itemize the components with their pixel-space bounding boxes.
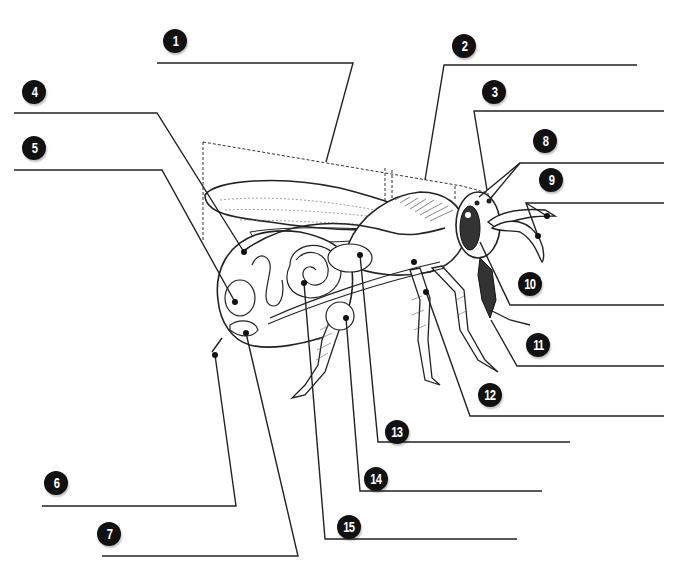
callout-badge-4: 4 bbox=[22, 80, 46, 104]
callout-badge-11: 11 bbox=[526, 333, 550, 357]
callout-badge-3: 3 bbox=[482, 80, 506, 104]
callout-badge-9: 9 bbox=[539, 168, 563, 192]
callout-badge-7: 7 bbox=[97, 522, 121, 546]
callout-badge-15: 15 bbox=[337, 515, 361, 539]
callout-badge-2: 2 bbox=[452, 34, 476, 58]
callout-badge-6: 6 bbox=[44, 471, 68, 495]
callout-badge-10: 10 bbox=[518, 272, 542, 296]
proboscis bbox=[478, 258, 496, 318]
callout-badge-12: 12 bbox=[478, 383, 502, 407]
callout-badge-1: 1 bbox=[163, 29, 187, 53]
bee-illustration bbox=[0, 0, 679, 569]
callout-badge-13: 13 bbox=[385, 420, 409, 444]
callout-badge-5: 5 bbox=[22, 136, 46, 160]
callout-badge-8: 8 bbox=[533, 129, 557, 153]
bee-anatomy-diagram: 1 2 3 4 5 6 7 8 9 10 11 12 13 14 15 bbox=[0, 0, 679, 569]
callout-badge-14: 14 bbox=[364, 467, 388, 491]
